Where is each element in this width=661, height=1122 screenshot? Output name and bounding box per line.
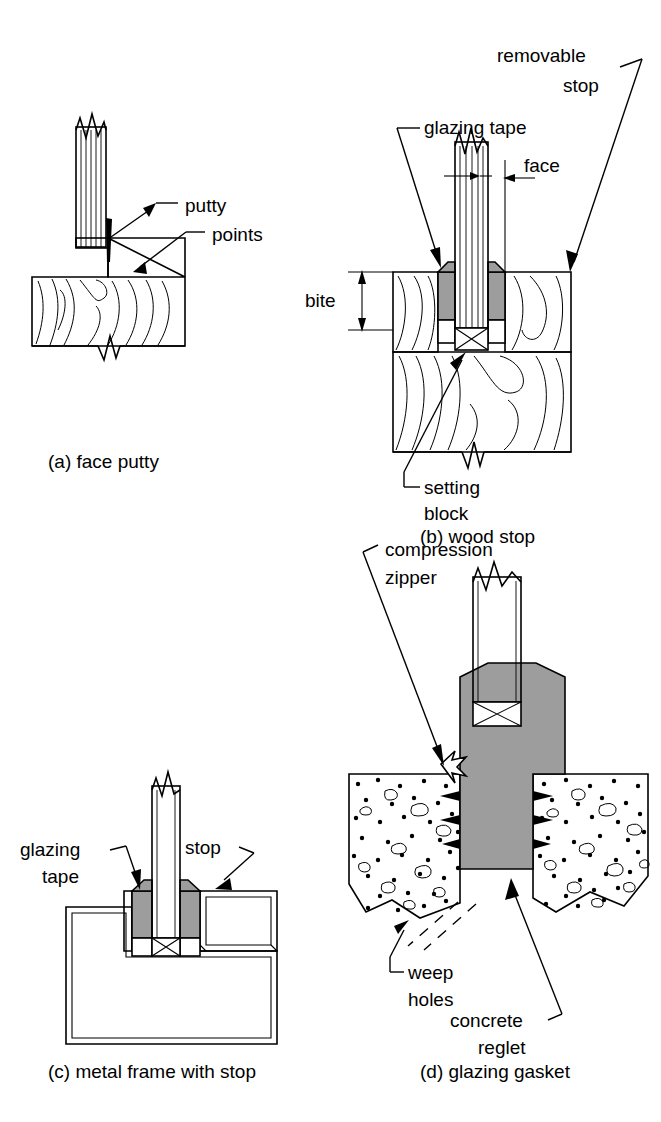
label-reglet: reglet — [478, 1037, 526, 1058]
label-stop-c: stop — [185, 837, 221, 858]
panel-b-rebate-right — [488, 320, 505, 343]
label-block: block — [424, 503, 469, 524]
label-holes: holes — [408, 989, 453, 1010]
caption-a: (a) face putty — [48, 451, 159, 472]
label-concrete: concrete — [450, 1010, 523, 1031]
caption-c: (c) metal frame with stop — [48, 1061, 256, 1082]
label-bite: bite — [305, 290, 336, 311]
panel-c-tape-left — [132, 891, 152, 938]
label-face: face — [524, 155, 560, 176]
label-removable: removable — [497, 45, 586, 66]
panel-b-rebate-left — [438, 320, 455, 343]
label-compression: compression — [385, 539, 493, 560]
label-zipper: zipper — [385, 567, 437, 588]
label-glazing-tape-b: glazing tape — [424, 117, 526, 138]
panel-c-tape-right — [180, 891, 200, 938]
page-background — [0, 0, 661, 1122]
label-points: points — [212, 224, 263, 245]
caption-d: (d) glazing gasket — [420, 1061, 571, 1082]
figure-sheet: putty points (a) face putty — [0, 0, 661, 1122]
label-removable-stop: stop — [563, 75, 599, 96]
label-glazing-c: glazing — [20, 839, 80, 860]
panel-c-pocket-left — [132, 938, 152, 956]
label-setting: setting — [424, 477, 480, 498]
label-weep: weep — [407, 962, 453, 983]
label-putty: putty — [185, 195, 227, 216]
panel-c-pocket-right — [180, 938, 200, 956]
panel-b-tape-right — [488, 272, 505, 320]
panel-b-tape-left — [438, 272, 455, 320]
label-tape-c: tape — [42, 866, 79, 887]
